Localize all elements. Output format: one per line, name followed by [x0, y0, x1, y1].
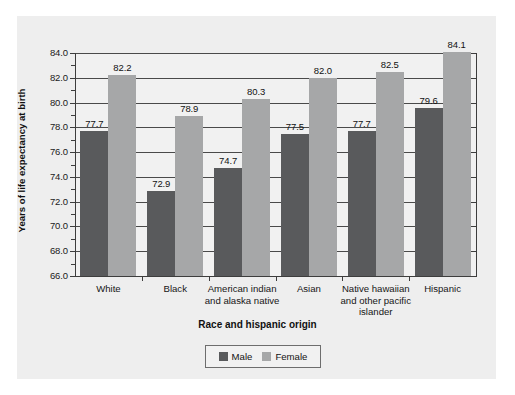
bar-value-label: 77.5: [275, 121, 315, 132]
y-tick-minor: [71, 239, 75, 240]
y-tick-mark: [70, 226, 75, 227]
x-tick-mark: [142, 277, 143, 281]
y-tick-label: 72.0: [28, 196, 68, 207]
y-tick-minor: [71, 264, 75, 265]
y-tick-mark-right: [471, 226, 477, 227]
bar-value-label: 84.1: [437, 39, 477, 50]
legend-item-female: Female: [262, 351, 307, 362]
y-tick-minor: [71, 189, 75, 190]
y-tick-label: 78.0: [28, 121, 68, 132]
bar-male: [80, 131, 108, 276]
y-tick-mark-right: [471, 177, 477, 178]
y-tick-label: 76.0: [28, 146, 68, 157]
legend-item-male: Male: [219, 351, 253, 362]
chart-legend: Male Female: [205, 345, 321, 368]
legend-label-female: Female: [275, 351, 307, 362]
bar-value-label: 77.7: [74, 118, 114, 129]
bar-male: [281, 134, 309, 276]
y-axis-title: Years of life expectancy at birth: [16, 66, 27, 256]
bar-male: [214, 168, 242, 276]
chart-figure: 84.082.080.078.076.074.072.070.068.066.0…: [0, 0, 515, 395]
bar-male: [147, 191, 175, 276]
y-tick-label: 68.0: [28, 245, 68, 256]
bar-value-label: 78.9: [169, 103, 209, 114]
x-tick-mark: [276, 277, 277, 281]
gridline: [75, 53, 476, 54]
bar-value-label: 82.2: [102, 62, 142, 73]
x-tick-mark: [342, 277, 343, 281]
y-tick-mark: [70, 78, 75, 79]
bar-value-label: 80.3: [236, 86, 276, 97]
legend-label-male: Male: [232, 351, 253, 362]
bar-female: [242, 99, 270, 276]
bar-value-label: 72.9: [141, 178, 181, 189]
y-tick-label: 66.0: [28, 270, 68, 281]
y-tick-label: 84.0: [28, 47, 68, 58]
y-tick-mark-right: [471, 202, 477, 203]
legend-swatch-male-icon: [219, 352, 228, 361]
y-tick-label: 80.0: [28, 97, 68, 108]
bar-male: [415, 108, 443, 276]
y-tick-mark-right: [471, 103, 477, 104]
bar-female: [108, 75, 136, 276]
bar-value-label: 77.7: [342, 118, 382, 129]
y-tick-minor: [71, 214, 75, 215]
y-tick-mark: [70, 103, 75, 104]
y-tick-label: 74.0: [28, 171, 68, 182]
y-tick-mark-right: [471, 251, 477, 252]
y-tick-minor: [71, 165, 75, 166]
x-tick-mark: [409, 277, 410, 281]
bar-value-label: 79.6: [409, 95, 449, 106]
y-tick-minor: [71, 140, 75, 141]
y-tick-mark-right: [471, 276, 477, 277]
bar-value-label: 74.7: [208, 155, 248, 166]
y-tick-mark: [70, 177, 75, 178]
x-axis-title: Race and hispanic origin: [0, 319, 515, 330]
x-category-label: Hispanic: [395, 283, 490, 295]
y-tick-mark-right: [471, 152, 477, 153]
y-tick-label: 70.0: [28, 220, 68, 231]
bar-female: [443, 52, 471, 276]
y-tick-mark: [70, 152, 75, 153]
y-tick-label: 82.0: [28, 72, 68, 83]
y-tick-minor: [71, 115, 75, 116]
bar-value-label: 82.0: [303, 65, 343, 76]
y-tick-mark-right: [471, 78, 477, 79]
y-tick-mark: [70, 276, 75, 277]
bar-female: [175, 116, 203, 276]
bar-female: [376, 72, 404, 276]
y-tick-mark: [70, 53, 75, 54]
legend-swatch-female-icon: [262, 352, 271, 361]
y-tick-minor: [71, 65, 75, 66]
x-tick-mark: [209, 277, 210, 281]
bar-value-label: 82.5: [370, 59, 410, 70]
y-tick-mark: [70, 202, 75, 203]
y-tick-mark-right: [471, 127, 477, 128]
bar-female: [309, 78, 337, 276]
y-tick-mark: [70, 251, 75, 252]
bar-male: [348, 131, 376, 276]
y-tick-minor: [71, 90, 75, 91]
y-tick-mark-right: [471, 53, 477, 54]
y-axis-line-right: [476, 53, 477, 277]
y-axis-line-left: [75, 53, 76, 277]
